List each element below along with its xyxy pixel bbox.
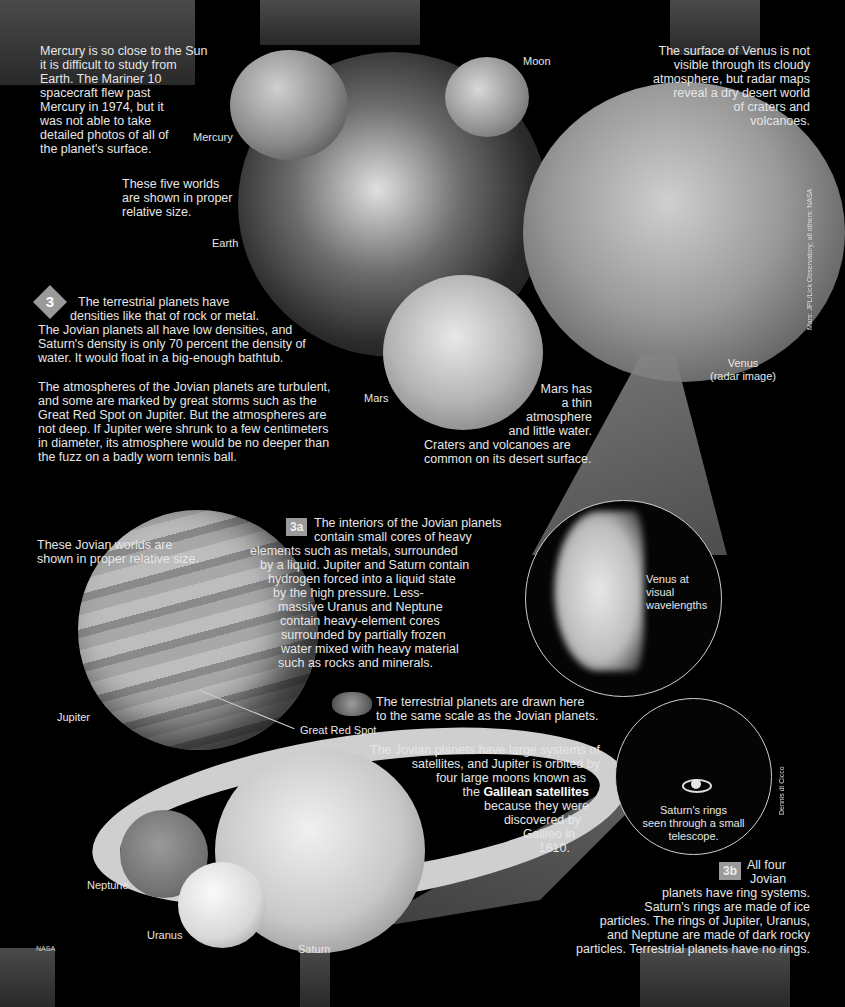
moon-image xyxy=(445,57,529,137)
section-3b-badge: 3b xyxy=(719,862,741,880)
mars-description: Mars has a thin atmosphere and little wa… xyxy=(430,382,592,438)
venus-visual-inset: Venus at visual wavelengths xyxy=(525,500,722,697)
five-worlds-note: These five worlds are shown in proper re… xyxy=(122,177,232,219)
label-great-red-spot: Great Red Spot xyxy=(300,724,376,737)
mars-description-2: Craters and volcanoes are common on its … xyxy=(424,438,591,466)
mercury-description: Mercury is so close to the Sun it is dif… xyxy=(40,44,207,156)
label-earth: Earth xyxy=(212,237,238,250)
label-venus-radar: Venus (radar image) xyxy=(703,357,783,383)
scan-artifact-bottom-center xyxy=(300,948,330,1007)
scan-artifact-bottom-left xyxy=(0,948,55,1007)
saturn-tiny-icon xyxy=(682,779,712,793)
mercury-image xyxy=(230,50,348,160)
section-3b-text: planets have ring systems. Saturn's ring… xyxy=(560,886,810,956)
satellites-description: The Jovian planets have large systems of… xyxy=(360,743,600,855)
uranus-image xyxy=(178,862,266,948)
section-3-paragraph-2: The atmospheres of the Jovian planets ar… xyxy=(38,380,331,464)
scale-note: The terrestrial planets are drawn here t… xyxy=(376,695,598,723)
saturn-telescope-inset: Saturn's rings seen through a small tele… xyxy=(615,698,772,855)
saturn-scope-caption: Saturn's rings seen through a small tele… xyxy=(616,804,771,843)
label-mercury: Mercury xyxy=(193,131,233,144)
saturn-photo-credit: Dennis di Cicco xyxy=(778,745,785,815)
terrestrial-planets-mini-icon xyxy=(332,692,372,716)
jovian-worlds-note: These Jovian worlds are shown in proper … xyxy=(37,538,199,566)
label-neptune: Neptune xyxy=(87,879,129,892)
galilean-satellites-term: Galilean satellites xyxy=(483,785,589,799)
label-mars: Mars xyxy=(364,392,388,405)
section-3b-lead: All four Jovian xyxy=(747,858,786,886)
label-jupiter: Jupiter xyxy=(57,711,90,724)
venus-crescent-image xyxy=(554,511,644,671)
scan-artifact-top-center xyxy=(260,0,420,45)
venus-photo-credit: Mars: JPL/Lick Observatory; all others: … xyxy=(806,180,813,330)
section-3a-text: The interiors of the Jovian planets cont… xyxy=(300,516,502,670)
venus-visual-caption: Venus at visual wavelengths xyxy=(646,573,707,612)
label-moon: Moon xyxy=(523,55,551,68)
label-uranus: Uranus xyxy=(147,929,182,942)
nasa-credit: NASA xyxy=(36,945,55,952)
scan-artifact-bottom-right xyxy=(640,948,790,1007)
section-3-paragraph-1: The terrestrial planets have densities l… xyxy=(38,295,306,365)
venus-description: The surface of Venus is not visible thro… xyxy=(600,44,810,128)
label-saturn: Saturn xyxy=(298,943,330,956)
